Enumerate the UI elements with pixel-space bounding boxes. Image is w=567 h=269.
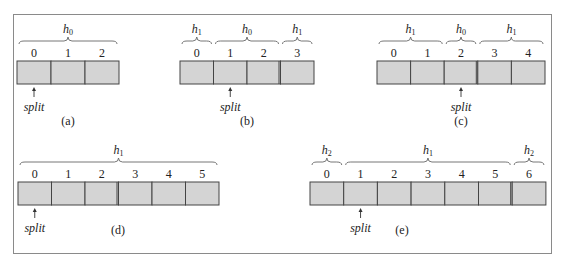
diagram-e: 0123456h2h1h2split(e) <box>310 143 546 237</box>
bucket-index: 1 <box>65 46 71 60</box>
bucket-index: 0 <box>391 46 397 60</box>
bucket-cell <box>186 182 220 205</box>
bucket-index: 0 <box>194 46 200 60</box>
subfigure-caption: (d) <box>111 223 125 237</box>
bucket-cell <box>152 182 186 205</box>
arrowhead-icon <box>33 208 37 212</box>
hash-range-brace <box>182 37 212 44</box>
bucket-index: 1 <box>358 167 364 181</box>
bucket-index: 1 <box>227 46 233 60</box>
bucket-index: 2 <box>99 167 105 181</box>
bucket-cell <box>377 61 411 84</box>
bucket-index: 2 <box>99 46 105 60</box>
hash-range-brace <box>283 37 313 44</box>
hash-function-label: h2 <box>524 143 534 158</box>
arrowhead-icon <box>32 87 36 91</box>
subfigure-caption: (b) <box>240 114 254 128</box>
bucket-cell <box>377 182 411 205</box>
hash-range-brace <box>216 37 279 44</box>
bucket-cell <box>17 61 51 84</box>
bucket-cell <box>411 61 445 84</box>
hash-range-brace <box>312 158 342 165</box>
hash-function-label: h1 <box>292 22 302 37</box>
bucket-cell <box>85 182 119 205</box>
bucket-cell <box>344 182 378 205</box>
hash-function-label: h1 <box>114 143 124 158</box>
subfigure-caption: (a) <box>61 114 74 128</box>
hash-function-label: h0 <box>242 22 252 37</box>
bucket-index: 3 <box>132 167 138 181</box>
hash-range-brace <box>20 158 217 165</box>
bucket-index: 6 <box>526 167 532 181</box>
subfigure-caption: (c) <box>454 114 467 128</box>
split-pointer-label: split <box>24 221 45 235</box>
bucket-cell <box>51 61 85 84</box>
bucket-cell <box>310 182 344 205</box>
subfigure-caption: (e) <box>395 223 408 237</box>
bucket-index: 4 <box>166 167 172 181</box>
hash-function-label: h0 <box>456 22 466 37</box>
bucket-index: 4 <box>459 167 465 181</box>
bucket-cell <box>247 61 281 84</box>
bucket-index: 5 <box>199 167 205 181</box>
hash-range-brace <box>446 37 476 44</box>
diagram-a: 012h0split(a) <box>17 22 119 128</box>
bucket-cell <box>281 61 315 84</box>
bucket-index: 4 <box>525 46 531 60</box>
bucket-cell <box>85 61 119 84</box>
bucket-cell <box>445 182 479 205</box>
arrowhead-icon <box>359 208 363 212</box>
bucket-index: 3 <box>294 46 300 60</box>
diagram-d: 012345h1split(d) <box>18 143 219 237</box>
bucket-index: 2 <box>261 46 267 60</box>
bucket-index: 5 <box>492 167 498 181</box>
bucket-cell <box>18 182 52 205</box>
linear-hashing-diagram: 012h0split(a)0123h1h0h1split(b)01234h1h0… <box>0 0 567 269</box>
bucket-index: 0 <box>324 167 330 181</box>
bucket-cell <box>512 182 546 205</box>
bucket-index: 0 <box>32 167 38 181</box>
hash-range-brace <box>379 37 442 44</box>
bucket-index: 0 <box>31 46 37 60</box>
hash-range-brace <box>480 37 543 44</box>
bucket-index: 2 <box>391 167 397 181</box>
bucket-index: 1 <box>65 167 71 181</box>
hash-function-label: h1 <box>506 22 516 37</box>
diagram-c: 01234h1h0h1split(c) <box>377 22 545 128</box>
hash-function-label: h1 <box>192 22 202 37</box>
split-pointer-label: split <box>24 100 45 114</box>
bucket-cell <box>180 61 214 84</box>
hash-function-label: h1 <box>423 143 433 158</box>
bucket-cell <box>478 61 512 84</box>
hash-function-label: h0 <box>63 22 73 37</box>
hash-range-brace <box>514 158 544 165</box>
bucket-index: 2 <box>458 46 464 60</box>
bucket-cell <box>511 61 545 84</box>
arrowhead-icon <box>459 87 463 91</box>
bucket-index: 1 <box>424 46 430 60</box>
bucket-cell <box>52 182 86 205</box>
bucket-index: 3 <box>492 46 498 60</box>
bucket-index: 3 <box>425 167 431 181</box>
bucket-cell <box>444 61 478 84</box>
arrowhead-icon <box>228 87 232 91</box>
bucket-cell <box>411 182 445 205</box>
hash-function-label: h1 <box>406 22 416 37</box>
diagram-b: 0123h1h0h1split(b) <box>180 22 314 128</box>
bucket-cell <box>119 182 153 205</box>
bucket-cell <box>214 61 248 84</box>
split-pointer-label: split <box>220 100 241 114</box>
split-pointer-label: split <box>350 221 371 235</box>
split-pointer-label: split <box>451 100 472 114</box>
hash-range-brace <box>19 37 117 44</box>
bucket-cell <box>479 182 513 205</box>
hash-function-label: h2 <box>322 143 332 158</box>
hash-range-brace <box>346 158 511 165</box>
